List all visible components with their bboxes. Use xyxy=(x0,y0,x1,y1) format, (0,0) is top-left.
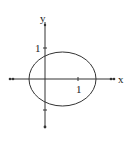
x-axis xyxy=(9,77,116,81)
y-tick-label: 1 xyxy=(35,42,41,54)
y-axis-top-arrow-icon xyxy=(44,24,46,26)
y-axis-label: y xyxy=(40,12,46,24)
y-axis-bottom-arrow-icon xyxy=(44,126,47,129)
y-axis xyxy=(43,22,47,128)
ellipse-diagram: y x 1 1 xyxy=(0,0,131,143)
x-axis-label: x xyxy=(118,73,124,85)
x-tick-label: 1 xyxy=(76,83,82,95)
